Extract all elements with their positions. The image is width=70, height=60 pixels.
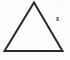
side-label-s: s bbox=[56, 15, 59, 23]
geometry-figure: s bbox=[0, 0, 70, 60]
triangle-shape bbox=[0, 0, 70, 60]
triangle-outline bbox=[5, 3, 63, 52]
